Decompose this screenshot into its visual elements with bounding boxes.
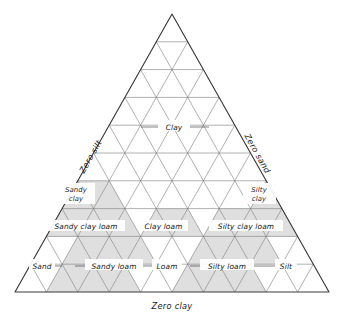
region-label-silty-clay-loam: Silty clay loam xyxy=(218,222,274,231)
axis-label-zero-sand: Zero sand xyxy=(242,131,273,176)
gridline-left-parallel-9 xyxy=(298,264,314,292)
region-label-sandy-clay-loam: Sandy clay loam xyxy=(54,222,117,231)
soil-texture-triangle-figure: Clay Sandy clay Silty clay Sandy clay lo… xyxy=(0,0,342,322)
region-label-sand: Sand xyxy=(32,262,51,271)
region-label-silt: Silt xyxy=(280,262,293,271)
region-label-silty-loam: Silty loam xyxy=(208,262,246,271)
region-label-sandy-clay-line1: Sandy xyxy=(65,186,88,194)
region-label-sandy-clay-line2: clay xyxy=(69,195,84,203)
region-label-loam: Loam xyxy=(157,262,178,271)
ternary-diagram-canvas: Clay Sandy clay Silty clay Sandy clay lo… xyxy=(0,0,342,322)
region-label-silty-clay-line2: clay xyxy=(252,195,267,203)
region-label-clay-loam: Clay loam xyxy=(144,222,182,231)
axis-label-zero-clay: Zero clay xyxy=(151,301,193,311)
region-label-sandy-loam: Sandy loam xyxy=(91,262,136,271)
axis-label-zero-silt: Zero silt xyxy=(77,138,104,176)
region-label-silty-clay-line1: Silty xyxy=(251,186,268,194)
region-label-clay: Clay xyxy=(166,123,183,132)
